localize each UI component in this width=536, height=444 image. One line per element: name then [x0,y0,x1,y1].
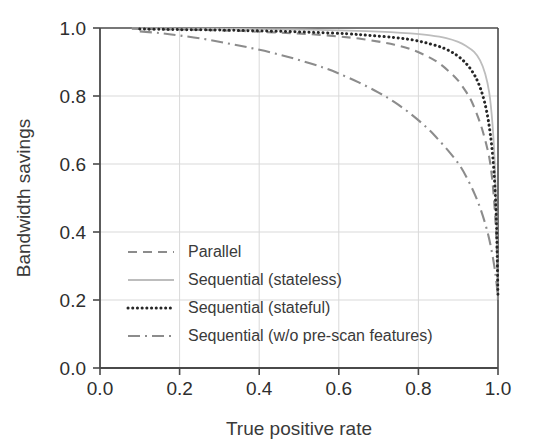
chart-figure: 0.00.20.40.60.81.0 0.00.20.40.60.81.0 Tr… [0,0,536,444]
x-tick-label-0.0: 0.0 [87,378,113,399]
x-tick-label-0.6: 0.6 [326,378,352,399]
x-tick-label-0.4: 0.4 [246,378,273,399]
y-tick-label-0.0: 0.0 [60,358,86,379]
legend-label: Sequential (stateful) [188,299,330,316]
y-tick-label-0.6: 0.6 [60,154,86,175]
roc-bandwidth-savings-chart: 0.00.20.40.60.81.0 0.00.20.40.60.81.0 Tr… [0,0,536,444]
x-axis-title: True positive rate [226,418,372,439]
y-axis-title: Bandwidth savings [13,119,34,277]
y-tick-label-0.8: 0.8 [60,86,86,107]
legend-label: Sequential (w/o pre-scan features) [188,327,433,344]
y-tick-label-1.0: 1.0 [60,18,86,39]
y-tick-label-0.2: 0.2 [60,290,86,311]
legend-label: Sequential (stateless) [188,271,342,288]
x-tick-label-1.0: 1.0 [485,378,511,399]
y-tick-label-0.4: 0.4 [60,222,87,243]
x-tick-label-0.8: 0.8 [405,378,431,399]
x-tick-label-0.2: 0.2 [166,378,192,399]
legend-label: Parallel [188,243,241,260]
